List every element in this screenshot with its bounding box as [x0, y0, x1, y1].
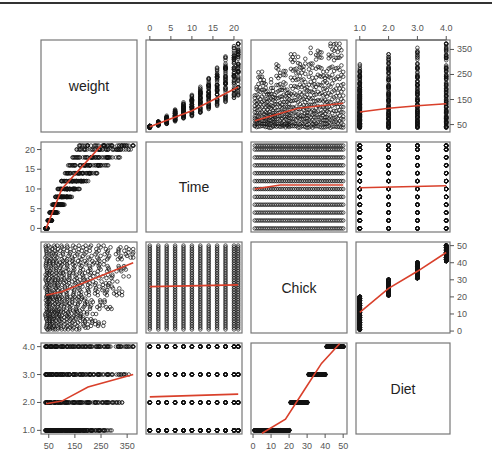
svg-text:30: 30	[302, 441, 312, 451]
svg-text:20: 20	[284, 441, 294, 451]
svg-text:15: 15	[208, 23, 218, 33]
svg-text:50: 50	[457, 241, 467, 251]
panel-diet-vs-diet: Diet	[356, 343, 450, 434]
svg-text:50: 50	[338, 441, 348, 451]
svg-text:15: 15	[25, 164, 35, 174]
variable-label-weight: weight	[68, 78, 110, 94]
panel-chick-vs-chick: Chick	[251, 242, 347, 333]
svg-text:40: 40	[457, 258, 467, 268]
panel-chick-vs-weight	[41, 242, 137, 333]
svg-text:30: 30	[457, 275, 467, 285]
panel-weight-vs-chick	[251, 40, 347, 132]
panel-diet-vs-chick	[251, 343, 347, 434]
svg-text:4.0: 4.0	[440, 23, 453, 33]
panel-weight-vs-time	[146, 40, 242, 132]
panel-time-vs-chick	[251, 142, 347, 232]
svg-text:50: 50	[457, 120, 467, 130]
svg-text:20: 20	[229, 23, 239, 33]
svg-text:0: 0	[147, 23, 152, 33]
svg-text:0: 0	[457, 326, 462, 336]
svg-text:3.0: 3.0	[411, 23, 424, 33]
panel-time-vs-time: Time	[146, 142, 242, 232]
panel-diet-vs-time	[146, 343, 242, 434]
panel-weight-vs-diet	[356, 40, 450, 132]
svg-text:150: 150	[67, 441, 82, 451]
panel-time-vs-diet	[356, 142, 450, 232]
svg-text:350: 350	[120, 441, 135, 451]
svg-text:10: 10	[187, 23, 197, 33]
panel-chick-vs-diet	[356, 242, 450, 333]
svg-text:10: 10	[457, 309, 467, 319]
variable-label-chick: Chick	[281, 280, 317, 296]
svg-text:0: 0	[251, 441, 256, 451]
svg-text:5: 5	[168, 23, 173, 33]
svg-text:20: 20	[457, 292, 467, 302]
svg-text:50: 50	[44, 441, 54, 451]
svg-text:10: 10	[266, 441, 276, 451]
panel-chick-vs-time	[146, 242, 242, 333]
svg-text:250: 250	[94, 441, 109, 451]
svg-text:0: 0	[30, 223, 35, 233]
svg-text:3.0: 3.0	[22, 370, 35, 380]
svg-text:4.0: 4.0	[22, 342, 35, 352]
panel-diet-vs-weight	[41, 343, 137, 434]
svg-text:2.0: 2.0	[382, 23, 395, 33]
svg-text:350: 350	[457, 44, 472, 54]
svg-text:5: 5	[30, 204, 35, 214]
svg-text:10: 10	[25, 184, 35, 194]
svg-text:2.0: 2.0	[22, 397, 35, 407]
panel-weight-vs-weight: weight	[41, 40, 137, 132]
svg-text:20: 20	[25, 145, 35, 155]
pairs-plot: weightTimeChickDiet051015201.02.03.04.03…	[0, 0, 492, 473]
svg-text:40: 40	[320, 441, 330, 451]
svg-text:150: 150	[457, 95, 472, 105]
svg-text:1.0: 1.0	[354, 23, 367, 33]
panel-time-vs-weight	[41, 142, 137, 232]
svg-text:1.0: 1.0	[22, 425, 35, 435]
svg-text:250: 250	[457, 69, 472, 79]
variable-label-time: Time	[179, 179, 210, 195]
variable-label-diet: Diet	[391, 381, 416, 397]
